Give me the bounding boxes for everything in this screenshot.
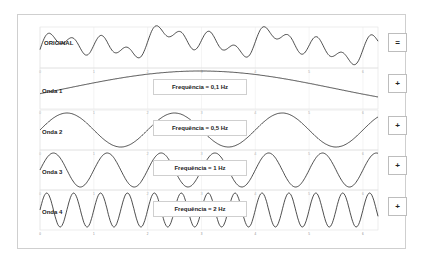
label-onda-4: Onda 4 xyxy=(42,209,62,215)
svg-text:5: 5 xyxy=(308,232,310,236)
freq-box-2: Frequência = 0,5 Hz xyxy=(153,120,247,136)
label-onda-2: Onda 2 xyxy=(42,129,62,135)
equals-button[interactable]: = xyxy=(388,33,407,52)
svg-text:0: 0 xyxy=(39,232,41,236)
label-onda-1: Onda 1 xyxy=(42,88,62,94)
add-button-1[interactable]: + xyxy=(388,74,407,93)
label-onda-3: Onda 3 xyxy=(42,169,62,175)
label-original: ORIGINAL xyxy=(44,40,73,46)
svg-text:6: 6 xyxy=(362,232,364,236)
add-button-2[interactable]: + xyxy=(388,116,407,135)
add-button-3[interactable]: + xyxy=(388,156,407,175)
svg-text:1: 1 xyxy=(93,232,95,236)
svg-text:3: 3 xyxy=(201,232,203,236)
svg-text:2: 2 xyxy=(147,232,149,236)
svg-text:4: 4 xyxy=(254,232,256,236)
freq-box-1: Frequência = 0,1 Hz xyxy=(153,79,247,95)
freq-box-3: Frequência = 1 Hz xyxy=(153,160,247,176)
freq-box-4: Frequência = 2 Hz xyxy=(153,201,247,217)
add-button-4[interactable]: + xyxy=(388,197,407,216)
